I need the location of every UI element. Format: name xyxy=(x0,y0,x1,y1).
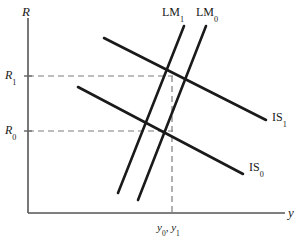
curve-label-LM0: LM0 xyxy=(196,6,218,18)
curve-label-LM1: LM1 xyxy=(162,6,184,18)
y-tick-label-R1: R1 xyxy=(5,69,16,81)
x-axis-label: y xyxy=(288,206,294,219)
curve-label-IS0: IS0 xyxy=(249,161,264,173)
x-tick-label-y0-y1: y0, y1 xyxy=(157,222,180,233)
curve-LM0 xyxy=(138,26,206,200)
curve-label-IS1: IS1 xyxy=(272,111,287,123)
y-axis-label: R xyxy=(22,5,30,18)
is-lm-figure: R y R1 R0 y0, y1 LM1 LM0 IS1 IS0 xyxy=(0,0,305,247)
plot-canvas xyxy=(0,0,305,247)
y-tick-label-R0: R0 xyxy=(5,124,16,136)
